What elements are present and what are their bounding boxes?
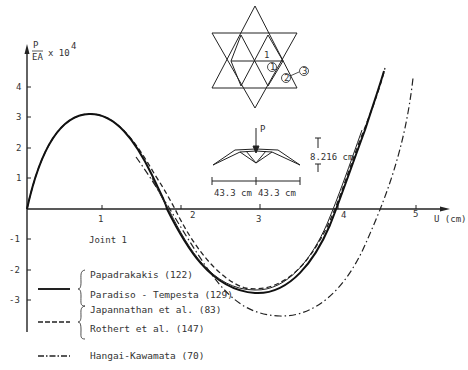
series-japannathan-rothert [27,68,385,289]
legend-hangai-kawamata: Hangai-Kawamata (70) [90,350,204,361]
y-tick-2: 2 [16,143,21,153]
span-right-label: 43.3 cm [258,188,296,198]
x-ticks [102,204,416,209]
legend-papadrakakis: Papadrakakis (122) [90,269,193,280]
legend-brace-1 [78,270,85,306]
y-label-multiplier: x 10 [48,48,70,58]
svg-text:1: 1 [270,62,275,72]
series-papadrakakis-paradiso [27,71,384,293]
y-axis-arrow-icon [25,44,30,54]
svg-text:2: 2 [284,73,289,83]
legend-rothert: Rothert et al. (147) [90,323,204,334]
joint-label-1: 1 [264,50,269,60]
y-tick-1: 1 [16,173,21,183]
y-label-exponent: 4 [71,41,76,51]
y-tick-4: 4 [16,82,21,92]
y-tick-minus-1: -1 [9,234,20,244]
height-label: 8.216 cm [310,152,353,162]
y-tick-minus-2: -2 [9,265,20,275]
x-tick-1: 1 [98,214,103,224]
x-tick-3: 3 [256,214,261,224]
legend [38,270,85,356]
x-tick-4: 4 [341,210,346,220]
elevation-diagram [212,128,321,185]
legend-japannathan: Japannathan et al. (83) [90,304,222,315]
star-truss-diagram [212,6,297,108]
joint-annotation: Joint 1 [89,235,127,245]
x-axis-arrow-icon [440,207,450,212]
chart-canvas: 4 3 2 1 -1 -2 -3 1 2 3 4 5 P EA x 10 4 U… [0,0,468,370]
y-tick-3: 3 [16,112,21,122]
legend-brace-2 [78,306,85,339]
y-tick-minus-3: -3 [9,295,20,305]
svg-text:3: 3 [302,66,307,76]
x-axis-label: U (cm) [434,214,467,224]
y-label-numerator: P [33,40,39,50]
load-label: P [260,124,266,134]
legend-paradiso-tempesta: Paradiso - Tempesta (129) [90,289,233,300]
y-label-denominator: EA [32,52,43,62]
joint-markers: 1 2 3 [268,62,309,83]
span-left-label: 43.3 cm [214,188,252,198]
x-tick-5: 5 [413,209,418,219]
x-tick-2: 2 [190,210,195,220]
